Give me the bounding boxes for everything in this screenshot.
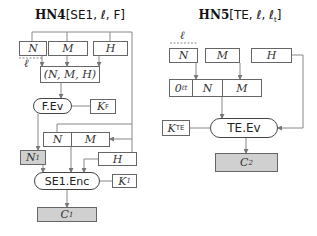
f-ev-node: F.Ev — [33, 98, 72, 114]
h-box-right: H — [251, 48, 292, 63]
c2-sub: 2 — [248, 159, 252, 167]
kte-box: KTE — [162, 120, 190, 136]
c1-box: C1 — [37, 207, 97, 222]
n-m-box-n: N — [44, 133, 72, 146]
c1-sub: 1 — [69, 211, 73, 219]
hn5-title-end: ] — [277, 8, 282, 22]
hn5-title-bold: HN5 — [199, 8, 230, 22]
tuple-box: (N, M, H) — [40, 66, 100, 83]
n-box: N — [19, 41, 47, 56]
te-ev-node: TE.Ev — [210, 118, 278, 138]
hn4-title-params: [SE1, ℓ, F] — [66, 8, 125, 22]
n1-label: N — [26, 151, 36, 164]
n-m-box-m: M — [72, 133, 109, 146]
kf-box: KF — [90, 99, 116, 114]
pad-n-m-box: 0ℓt N M — [169, 79, 262, 97]
n1-box: N1 — [20, 150, 46, 165]
hn4-title: HN4[SE1, ℓ, F] — [35, 8, 125, 22]
pad-m-segment: M — [223, 80, 261, 96]
ell-label-right: ℓ — [180, 29, 185, 42]
k1-box: K1 — [112, 174, 137, 188]
h-box: H — [93, 41, 128, 56]
kf-label: K — [97, 100, 105, 113]
hn5-title-params: [TE, ℓ, ℓ — [229, 8, 274, 22]
n1-sub: 1 — [36, 154, 40, 162]
ell-label: ℓ — [24, 57, 29, 70]
kte-label: K — [168, 122, 176, 135]
kf-sub: F — [105, 103, 109, 111]
m-box-right: M — [205, 48, 240, 63]
n-m-box: N M — [43, 132, 110, 147]
k1-label: K — [118, 175, 126, 188]
hn4-title-bold: HN4 — [35, 8, 66, 22]
se1-enc-node: SE1.Enc — [34, 172, 100, 190]
pad-n-segment: N — [193, 80, 223, 96]
k1-sub: 1 — [126, 177, 130, 185]
zero-sup: ℓt — [182, 84, 188, 92]
pad-segment: 0ℓt — [170, 80, 193, 96]
c2-box: C2 — [215, 153, 278, 172]
zero-label: 0 — [175, 82, 182, 95]
hn5-title: HN5[TE, ℓ, ℓt] — [199, 8, 282, 24]
c1-label: C — [61, 208, 69, 221]
n-box-right: N — [169, 48, 198, 63]
kte-sub: TE — [176, 124, 185, 132]
m-box: M — [48, 41, 88, 56]
h2-box: H — [98, 152, 137, 166]
